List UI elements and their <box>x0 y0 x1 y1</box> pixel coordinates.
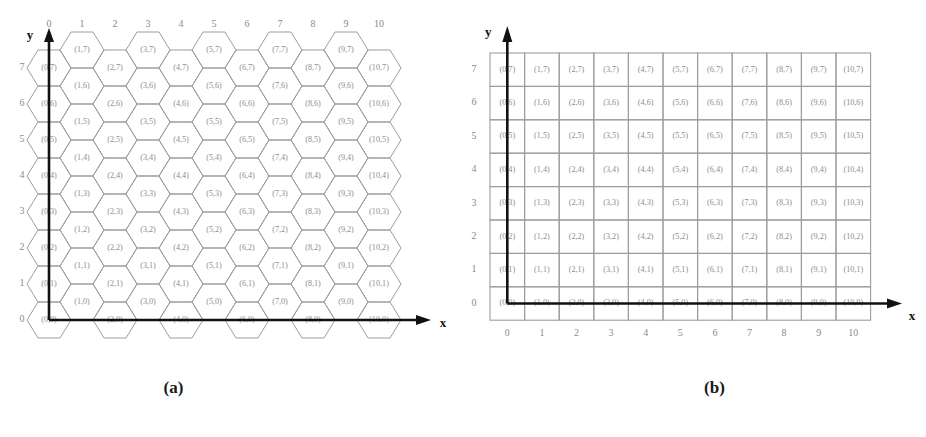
hex-cell-label-8-4: (8,4) <box>305 171 321 180</box>
hex-cell-label-10-1: (10,1) <box>369 279 389 288</box>
figure-hex-vs-rect-grids: (0,7)(1,7)(2,7)(3,7)(4,7)(5,7)(6,7)(7,7)… <box>0 0 926 437</box>
panel-b-rectangular-grid: (0,7)(1,7)(2,7)(3,7)(4,7)(5,7)(6,7)(7,7)… <box>463 0 926 437</box>
x-tick-9: 9 <box>816 327 821 338</box>
rect-cell-label-1-5: (1,5) <box>534 131 550 140</box>
rect-cell-label-6-3: (6,3) <box>707 198 723 207</box>
rect-cell-label-2-6: (2,6) <box>569 98 585 107</box>
panel-b-axes <box>502 26 902 309</box>
hex-cell-label-4-5: (4,5) <box>173 135 189 144</box>
x-tick-6: 6 <box>712 327 717 338</box>
y-axis-label: y <box>27 27 34 42</box>
hex-cell-label-1-3: (1,3) <box>74 189 90 198</box>
rect-cell-label-2-7: (2,7) <box>569 65 585 74</box>
x-tick-10: 10 <box>374 18 384 29</box>
rect-cell-label-2-1: (2,1) <box>569 265 585 274</box>
panel-a-y-ticks: 76543210 <box>20 61 25 324</box>
hex-cell-label-1-6: (1,6) <box>74 81 90 90</box>
rect-cell-label-10-6: (10,6) <box>843 98 863 107</box>
panel-b-svg: (0,7)(1,7)(2,7)(3,7)(4,7)(5,7)(6,7)(7,7)… <box>463 0 926 437</box>
rect-cell-label-5-5: (5,5) <box>672 131 688 140</box>
hex-cell-label-2-4: (2,4) <box>107 171 123 180</box>
rect-cell-label-7-5: (7,5) <box>742 131 758 140</box>
hex-cell-label-8-2: (8,2) <box>305 243 321 252</box>
panel-a-cells <box>27 32 401 338</box>
hex-cell-label-3-3: (3,3) <box>140 189 156 198</box>
rect-cell-label-9-1: (9,1) <box>811 265 827 274</box>
rect-cell-label-5-7: (5,7) <box>672 65 688 74</box>
panel-a-hexagonal-grid: (0,7)(1,7)(2,7)(3,7)(4,7)(5,7)(6,7)(7,7)… <box>0 0 463 437</box>
hex-cell-label-6-3: (6,3) <box>239 207 255 216</box>
rect-cell-label-9-4: (9,4) <box>811 165 827 174</box>
rect-cell-label-3-1: (3,1) <box>603 265 619 274</box>
y-tick-6: 6 <box>472 96 477 107</box>
hex-cell-label-4-7: (4,7) <box>173 63 189 72</box>
hex-cell-label-3-7: (3,7) <box>140 45 156 54</box>
rect-cell-label-3-7: (3,7) <box>603 65 619 74</box>
hex-cell-label-9-4: (9,4) <box>338 153 354 162</box>
y-tick-0: 0 <box>472 297 477 308</box>
y-tick-4: 4 <box>472 163 477 174</box>
hex-cell-label-10-2: (10,2) <box>369 243 389 252</box>
panel-a-caption: (a) <box>0 378 405 398</box>
rect-cell-label-5-2: (5,2) <box>672 232 688 241</box>
x-tick-5: 5 <box>212 18 217 29</box>
x-tick-2: 2 <box>574 327 579 338</box>
hex-cell-label-5-5: (5,5) <box>206 117 222 126</box>
rect-cell-label-1-7: (1,7) <box>534 65 550 74</box>
y-tick-7: 7 <box>20 61 25 72</box>
hex-cell-label-4-4: (4,4) <box>173 171 189 180</box>
panel-a-x-ticks: 012345678910 <box>47 18 385 29</box>
y-tick-1: 1 <box>472 263 477 274</box>
hex-cell-label-4-1: (4,1) <box>173 279 189 288</box>
y-tick-5: 5 <box>20 133 25 144</box>
rect-cell-label-10-1: (10,1) <box>843 265 863 274</box>
rect-cell-label-2-3: (2,3) <box>569 198 585 207</box>
hex-cell-label-9-2: (9,2) <box>338 225 354 234</box>
x-tick-5: 5 <box>678 327 683 338</box>
x-tick-0: 0 <box>505 327 510 338</box>
rect-cell-label-2-5: (2,5) <box>569 131 585 140</box>
hex-cell-label-9-3: (9,3) <box>338 189 354 198</box>
y-axis-label: y <box>485 24 492 39</box>
hex-cell-label-1-5: (1,5) <box>74 117 90 126</box>
x-tick-3: 3 <box>609 327 614 338</box>
hex-cell-label-5-2: (5,2) <box>206 225 222 234</box>
rect-cell-label-8-7: (8,7) <box>776 65 792 74</box>
hex-cell-label-7-2: (7,2) <box>272 225 288 234</box>
hex-cell-label-3-0: (3,0) <box>140 297 156 306</box>
rect-cell-label-9-3: (9,3) <box>811 198 827 207</box>
hex-cell-label-2-2: (2,2) <box>107 243 123 252</box>
hex-cell-label-2-5: (2,5) <box>107 135 123 144</box>
rect-cell-label-4-5: (4,5) <box>638 131 654 140</box>
rect-cell-label-3-3: (3,3) <box>603 198 619 207</box>
rect-cell-label-7-3: (7,3) <box>742 198 758 207</box>
y-tick-3: 3 <box>20 205 25 216</box>
hex-cell-label-8-6: (8,6) <box>305 99 321 108</box>
hex-cell-label-6-6: (6,6) <box>239 99 255 108</box>
rect-cell-label-4-4: (4,4) <box>638 165 654 174</box>
hex-cell-label-4-3: (4,3) <box>173 207 189 216</box>
panel-b-cells <box>490 53 871 320</box>
y-axis-arrow <box>502 26 512 42</box>
panel-b-x-ticks: 012345678910 <box>505 327 859 338</box>
y-tick-1: 1 <box>20 277 25 288</box>
hex-cell-label-3-5: (3,5) <box>140 117 156 126</box>
y-tick-5: 5 <box>472 130 477 141</box>
y-tick-4: 4 <box>20 169 25 180</box>
x-axis-label: x <box>909 308 916 323</box>
rect-cell-label-9-6: (9,6) <box>811 98 827 107</box>
hex-cell-label-2-3: (2,3) <box>107 207 123 216</box>
hex-cell-label-3-4: (3,4) <box>140 153 156 162</box>
rect-cell-label-6-5: (6,5) <box>707 131 723 140</box>
hex-cell-label-9-1: (9,1) <box>338 261 354 270</box>
hex-cell-label-9-6: (9,6) <box>338 81 354 90</box>
rect-cell-label-7-4: (7,4) <box>742 165 758 174</box>
x-axis-label: x <box>440 315 447 330</box>
rect-cell-label-3-2: (3,2) <box>603 232 619 241</box>
rect-cell-label-4-3: (4,3) <box>638 198 654 207</box>
rect-cell-label-3-5: (3,5) <box>603 131 619 140</box>
hex-cell-label-3-6: (3,6) <box>140 81 156 90</box>
x-axis-arrow <box>416 315 431 325</box>
rect-cell-label-8-5: (8,5) <box>776 131 792 140</box>
rect-cell-label-6-2: (6,2) <box>707 232 723 241</box>
